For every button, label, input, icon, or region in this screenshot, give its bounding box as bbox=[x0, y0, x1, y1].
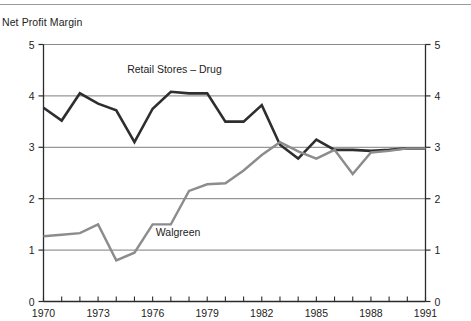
x-tick-label-1988: 1988 bbox=[359, 307, 383, 319]
x-tick-label-1973: 1973 bbox=[86, 307, 110, 319]
chart-svg: 0011223344551970197319761979198219851988… bbox=[0, 0, 471, 321]
y-tick-label-left-2: 2 bbox=[29, 193, 35, 205]
x-tick-label-1976: 1976 bbox=[141, 307, 165, 319]
x-tick-label-1982: 1982 bbox=[250, 307, 274, 319]
x-tick-label-1985: 1985 bbox=[305, 307, 329, 319]
x-tick-label-1970: 1970 bbox=[32, 307, 56, 319]
y-tick-label-right-1: 1 bbox=[435, 244, 441, 256]
x-tick-label-1979: 1979 bbox=[196, 307, 220, 319]
y-tick-label-right-2: 2 bbox=[435, 193, 441, 205]
series-label-retail-stores-drug: Retail Stores – Drug bbox=[127, 63, 222, 75]
x-tick-label-1991: 1991 bbox=[414, 307, 438, 319]
y-tick-label-left-1: 1 bbox=[29, 244, 35, 256]
y-tick-label-right-5: 5 bbox=[435, 39, 441, 51]
y-tick-label-left-3: 3 bbox=[29, 141, 35, 153]
series-label-walgreen: Walgreen bbox=[156, 226, 201, 238]
y-tick-label-right-3: 3 bbox=[435, 141, 441, 153]
y-tick-label-right-4: 4 bbox=[435, 90, 441, 102]
chart-plot-area: 0011223344551970197319761979198219851988… bbox=[0, 0, 471, 321]
series-line-retail-stores-drug bbox=[44, 92, 426, 159]
y-tick-label-left-4: 4 bbox=[29, 90, 35, 102]
series-line-walgreen bbox=[44, 142, 426, 260]
y-tick-label-left-5: 5 bbox=[29, 39, 35, 51]
